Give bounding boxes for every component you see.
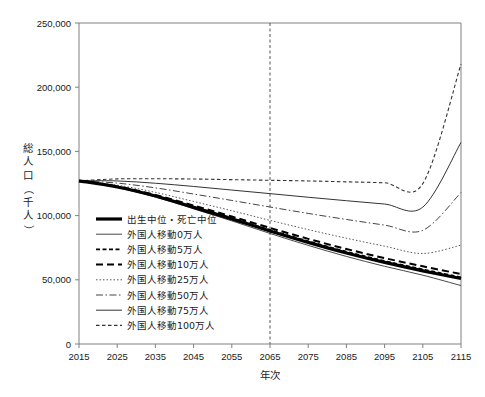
y-tick-label: 200,000 <box>37 82 71 93</box>
x-tick-label: 2105 <box>412 351 433 362</box>
x-tick-label: 2075 <box>298 351 319 362</box>
y-tick-label: 100,000 <box>37 210 71 221</box>
svg-text:人: 人 <box>23 155 34 167</box>
svg-text:千: 千 <box>23 196 33 208</box>
svg-text:口: 口 <box>23 169 33 181</box>
legend-label: 外国人移動0万人 <box>127 229 203 240</box>
chart-canvas: 050,000100,000150,000200,000250,00020152… <box>0 0 485 397</box>
legend-label: 外国人移動50万人 <box>127 290 209 301</box>
legend-label: 外国人移動5万人 <box>127 244 203 255</box>
y-tick-label: 150,000 <box>37 146 71 157</box>
x-tick-label: 2035 <box>145 351 166 362</box>
population-projection-chart: 050,000100,000150,000200,000250,00020152… <box>0 0 485 397</box>
x-axis-title: 年次 <box>260 369 281 381</box>
svg-text:総: 総 <box>23 142 34 154</box>
x-tick-label: 2015 <box>68 351 89 362</box>
x-tick-label: 2045 <box>183 351 204 362</box>
legend: 出生中位・死亡中位外国人移動0万人外国人移動5万人外国人移動10万人外国人移動2… <box>96 214 217 331</box>
y-axis-title: 総人口（千人） <box>23 142 35 235</box>
svg-text:）: ） <box>23 225 35 235</box>
y-tick-label: 250,000 <box>37 18 71 29</box>
legend-label: 外国人移動25万人 <box>127 274 209 285</box>
x-tick-label: 2025 <box>107 351 128 362</box>
legend-label: 外国人移動10万人 <box>127 259 209 270</box>
x-tick-label: 2065 <box>259 351 280 362</box>
legend-label: 外国人移動100万人 <box>127 320 215 331</box>
svg-text:（: （ <box>23 184 35 194</box>
x-tick-label: 2055 <box>221 351 242 362</box>
legend-label: 出生中位・死亡中位 <box>127 214 217 225</box>
y-tick-label: 50,000 <box>42 274 71 285</box>
x-tick-label: 2115 <box>451 351 471 362</box>
x-tick-label: 2095 <box>374 351 395 362</box>
svg-text:人: 人 <box>23 209 34 221</box>
x-tick-label: 2085 <box>336 351 357 362</box>
y-tick-label: 0 <box>66 339 71 350</box>
legend-label: 外国人移動75万人 <box>127 305 209 316</box>
